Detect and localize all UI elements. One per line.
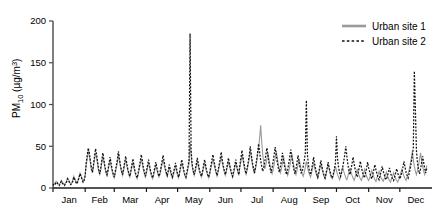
x-tick-label-nov: Nov xyxy=(376,194,393,205)
x-tick-label-jan: Jan xyxy=(61,194,76,205)
y-axis-label: PM10 (µg/m3) xyxy=(10,59,26,118)
y-tick-label: 50 xyxy=(35,141,46,152)
x-tick-label-oct: Oct xyxy=(345,194,360,205)
series-layer xyxy=(53,34,427,186)
chart-legend: Urban site 1Urban site 2 xyxy=(342,21,426,47)
legend-label-1: Urban site 1 xyxy=(372,21,426,32)
x-tick-label-jun: Jun xyxy=(218,194,233,205)
chart-canvas: PM10 (µg/m3) 050100150200 JanFebMarAprMa… xyxy=(0,0,445,224)
x-tick-label-mar: Mar xyxy=(122,194,138,205)
y-tick-label: 200 xyxy=(30,15,46,26)
x-tick-label-apr: Apr xyxy=(155,194,170,205)
x-tick-label-aug: Aug xyxy=(281,194,298,205)
x-tick-label-dec: Dec xyxy=(407,194,424,205)
y-tick-label: 100 xyxy=(30,99,46,110)
x-tick-label-sep: Sep xyxy=(312,194,329,205)
y-axis-ticks: 050100150200 xyxy=(30,15,53,193)
y-axis-label-units: (µg/m xyxy=(11,66,22,95)
x-tick-label-may: May xyxy=(185,194,203,205)
x-tick-label-jul: Jul xyxy=(251,194,263,205)
y-tick-label: 0 xyxy=(41,182,46,193)
svg-text:PM10 (µg/m3): PM10 (µg/m3) xyxy=(10,59,26,118)
x-axis-ticks: JanFebMarAprMayJunJulAugSepOctNovDec xyxy=(53,188,425,205)
legend-label-2: Urban site 2 xyxy=(372,36,426,47)
y-axis-label-close: ) xyxy=(11,59,22,62)
series-line-1 xyxy=(53,125,427,184)
series-line-2 xyxy=(53,34,427,186)
x-tick-label-feb: Feb xyxy=(92,194,108,205)
pm10-timeseries-chart: PM10 (µg/m3) 050100150200 JanFebMarAprMa… xyxy=(0,0,445,224)
y-axis-label-base: PM xyxy=(11,103,22,118)
y-axis-label-subscript: 10 xyxy=(16,95,25,103)
y-tick-label: 150 xyxy=(30,57,46,68)
